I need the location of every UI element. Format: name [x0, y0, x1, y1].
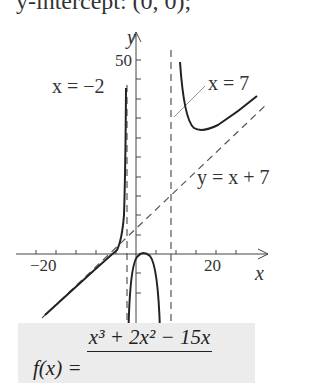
- x-tick-label-20: 20: [204, 256, 221, 276]
- function-formula: f(x) = x³ + 2x² − 15x: [33, 325, 212, 381]
- middle-branch: [129, 253, 161, 330]
- formula-denominator: [87, 352, 212, 372]
- curve: [45, 62, 257, 330]
- left-branch: [45, 88, 126, 315]
- asymptote-label-x-neg2: x = −2: [52, 75, 105, 98]
- label-leader-line: [174, 86, 205, 117]
- y-axis-label: y: [127, 26, 136, 49]
- formula-numerator: x³ + 2x² − 15x: [87, 325, 212, 352]
- x-tick-label-neg20: −20: [30, 256, 57, 276]
- formula-fraction: x³ + 2x² − 15x: [87, 325, 212, 372]
- asymptote-label-x-7: x = 7: [208, 72, 249, 95]
- formula-lhs: f(x) =: [33, 356, 82, 380]
- asymptote-label-slant: y = x + 7: [197, 166, 270, 189]
- y-tick-label-50: 50: [115, 51, 132, 71]
- x-axis-label: x: [255, 262, 264, 285]
